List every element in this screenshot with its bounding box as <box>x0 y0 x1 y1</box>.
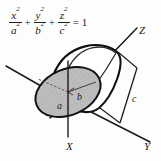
equation-term-z-denominator-exponent: 2 <box>64 20 68 28</box>
dimension-label-b: b <box>77 91 82 102</box>
equation-plus-2: + <box>49 17 55 28</box>
equation-term-z: z2 c2 <box>57 9 69 35</box>
dimension-c-tick-bottom <box>100 108 120 123</box>
axis-label-y: Y <box>144 140 150 152</box>
equation-term-z-numerator-exponent: 2 <box>64 5 68 13</box>
equation-term-x-denominator-exponent: 2 <box>17 20 21 28</box>
dimension-label-c: c <box>132 93 136 104</box>
equation-term-y-numerator: y2 <box>34 9 46 23</box>
equation-term-y-denominator: b2 <box>33 23 46 36</box>
equation-term-z-denominator: c2 <box>57 23 69 36</box>
equation-term-y-numerator-exponent: 2 <box>40 5 44 13</box>
equation-term-y-denominator-exponent: 2 <box>41 20 45 28</box>
axis-label-z: Z <box>139 24 145 36</box>
equation-term-x: x2 a2 <box>9 9 22 35</box>
dimension-label-a: a <box>57 100 62 111</box>
axis-label-x: X <box>66 140 73 152</box>
figure-panel: x2 a2 + y2 b2 + z2 c2 = 1 Z X Y a b c <box>0 0 161 161</box>
equation-term-x-numerator-exponent: 2 <box>16 5 20 13</box>
ellipsoid-equation: x2 a2 + y2 b2 + z2 c2 = 1 <box>8 9 87 35</box>
equation-plus-1: + <box>25 17 31 28</box>
equation-term-x-denominator: a2 <box>9 23 22 36</box>
equation-right-hand-side: = 1 <box>73 17 87 28</box>
equation-term-y: y2 b2 <box>33 9 46 35</box>
